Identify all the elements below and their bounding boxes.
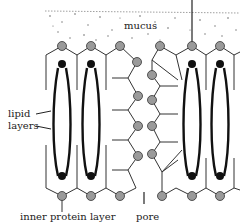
lipid-molecule xyxy=(184,60,201,180)
lipid-label: lipid xyxy=(8,108,30,119)
inner-protein-layer-lines xyxy=(46,145,240,212)
pore-channel xyxy=(112,46,182,196)
lipid-bilayer xyxy=(54,60,229,180)
lipid-molecule xyxy=(212,60,229,180)
outer-protein-layer xyxy=(46,46,240,90)
layers-label: layers xyxy=(8,120,39,131)
pore-label: pore xyxy=(136,211,159,222)
mucus-label: mucus xyxy=(124,20,157,31)
membrane-diagram xyxy=(0,0,244,224)
lipid-pointer xyxy=(36,111,51,114)
inner-protein-layer-label: inner protein layer xyxy=(20,211,115,222)
lipid-molecule xyxy=(83,60,100,180)
lipid-molecule xyxy=(54,60,71,180)
